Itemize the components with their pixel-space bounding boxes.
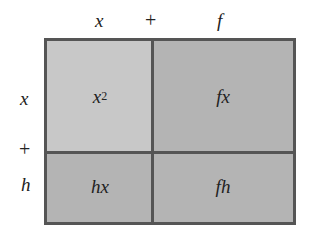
cell-fh: fh: [153, 152, 293, 222]
cell-x-squared: x2: [47, 41, 153, 152]
vertical-divider: [151, 41, 154, 222]
area-rectangle: x2 fx hx fh: [44, 38, 296, 225]
cell-hx: hx: [47, 152, 153, 222]
top-label-x: x: [95, 11, 103, 30]
top-label-f: f: [217, 11, 222, 30]
cell-fx: fx: [153, 41, 293, 152]
side-label-h: h: [21, 175, 31, 194]
side-label-x: x: [20, 89, 28, 108]
horizontal-divider: [47, 151, 293, 154]
top-label-plus: +: [145, 10, 156, 30]
cell-x-squared-base: x: [93, 86, 101, 108]
side-label-plus: +: [19, 139, 30, 159]
cell-x-squared-exponent: 2: [101, 89, 107, 104]
